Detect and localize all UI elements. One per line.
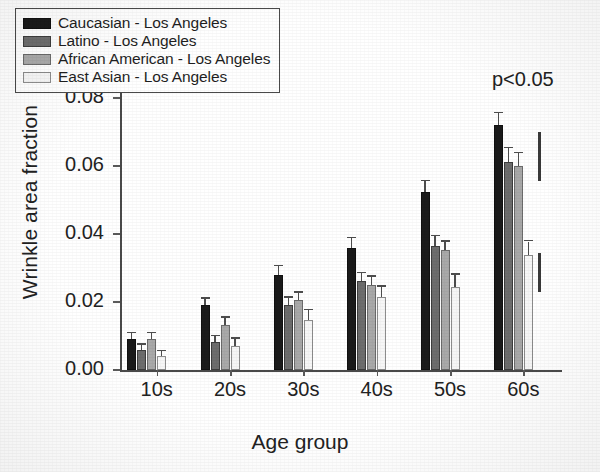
error-bar [424, 181, 426, 191]
error-bar-cap [294, 291, 303, 293]
significance-bar-upper [538, 132, 541, 181]
error-bar [528, 242, 530, 256]
error-bar [444, 242, 446, 251]
error-bar-cap [127, 332, 136, 334]
error-bar [434, 236, 436, 246]
error-bar-cap [147, 332, 156, 334]
x-axis-title: Age group [0, 430, 600, 454]
error-bar [298, 293, 300, 300]
chart-legend: Caucasian - Los AngelesLatino - Los Ange… [15, 8, 280, 93]
bar [514, 166, 523, 370]
x-tick-label: 60s [493, 378, 553, 401]
error-bar [308, 310, 310, 320]
error-bar-cap [274, 265, 283, 267]
x-tick-mark [230, 370, 232, 376]
error-bar-cap [421, 180, 430, 182]
y-tick-mark [113, 301, 120, 303]
error-bar-cap [201, 297, 210, 299]
error-bar-cap [514, 152, 523, 154]
error-bar-cap [231, 337, 240, 339]
error-bar-cap [504, 147, 513, 149]
error-bar [224, 318, 226, 325]
error-bar-cap [431, 235, 440, 237]
legend-item[interactable]: Caucasian - Los Angeles [23, 14, 270, 32]
error-bar-cap [451, 273, 460, 275]
bar [421, 192, 430, 371]
error-bar [278, 266, 280, 275]
legend-label: Latino - Los Angeles [58, 32, 196, 50]
error-bar-cap [494, 112, 503, 114]
legend-item[interactable]: East Asian - Los Angeles [23, 68, 270, 86]
error-bar [141, 345, 143, 350]
legend-swatch [23, 54, 51, 65]
error-bar [214, 336, 216, 342]
bar [357, 281, 366, 370]
x-tick-mark [450, 370, 452, 376]
error-bar-cap [441, 240, 450, 242]
bar [201, 305, 210, 370]
error-bar-cap [304, 309, 313, 311]
bar [211, 342, 220, 370]
error-bar [204, 299, 206, 306]
legend-label: African American - Los Angeles [58, 50, 270, 68]
y-tick-label: 0.02 [30, 289, 104, 312]
error-bar-cap [221, 316, 230, 318]
error-bar [371, 277, 373, 286]
error-bar [518, 153, 520, 166]
error-bar [361, 273, 363, 280]
bar [221, 325, 230, 370]
y-tick-label: 0.06 [30, 153, 104, 176]
error-bar [131, 333, 133, 339]
error-bar [508, 148, 510, 162]
bar [294, 300, 303, 370]
bar [494, 125, 503, 370]
error-bar-cap [347, 237, 356, 239]
y-tick-mark [113, 233, 120, 235]
x-tick-label: 10s [127, 378, 187, 401]
y-tick-label: 0.00 [30, 357, 104, 380]
bar [157, 356, 166, 370]
bar [127, 339, 136, 370]
legend-item[interactable]: Latino - Los Angeles [23, 32, 270, 50]
error-bar-cap [377, 285, 386, 287]
legend-swatch [23, 18, 51, 29]
bar [451, 287, 460, 370]
error-bar [498, 113, 500, 125]
x-tick-mark [303, 370, 305, 376]
x-tick-mark [377, 370, 379, 376]
error-bar-cap [211, 335, 220, 337]
bar [231, 346, 240, 370]
error-bar-cap [367, 275, 376, 277]
error-bar-cap [284, 296, 293, 298]
y-tick-label: 0.04 [30, 221, 104, 244]
bar [431, 246, 440, 370]
legend-item[interactable]: African American - Los Angeles [23, 50, 270, 68]
x-tick-mark [157, 370, 159, 376]
bar [504, 162, 513, 370]
x-tick-mark [523, 370, 525, 376]
error-bar-cap [524, 240, 533, 242]
legend-swatch [23, 72, 51, 83]
bar [377, 297, 386, 370]
y-tick-mark [113, 97, 120, 99]
bar [524, 255, 533, 370]
error-bar-cap [157, 350, 166, 352]
significance-bar-lower [538, 253, 541, 292]
legend-label: East Asian - Los Angeles [58, 68, 227, 86]
error-bar-cap [137, 343, 146, 345]
bar [367, 285, 376, 370]
bar [347, 248, 356, 370]
legend-swatch [23, 36, 51, 47]
bar [274, 275, 283, 370]
y-tick-mark [113, 165, 120, 167]
error-bar [381, 287, 383, 297]
error-bar [288, 298, 290, 305]
bar [137, 350, 146, 370]
x-axis-line [120, 370, 562, 372]
x-tick-label: 30s [273, 378, 333, 401]
error-bar [151, 333, 153, 339]
legend-label: Caucasian - Los Angeles [58, 14, 227, 32]
bar [304, 320, 313, 370]
bar [441, 250, 450, 370]
x-tick-label: 40s [347, 378, 407, 401]
